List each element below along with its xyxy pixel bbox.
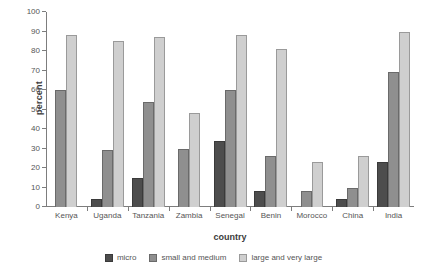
bar-group xyxy=(128,12,169,207)
y-tick-label: 90 xyxy=(16,26,40,37)
plot-area: 0102030405060708090100 xyxy=(46,12,414,207)
bar xyxy=(66,35,77,207)
legend-item: micro xyxy=(105,253,137,262)
bar xyxy=(189,113,200,207)
bar-groups xyxy=(46,12,414,207)
bar xyxy=(132,178,143,207)
bar-chart: percent 0102030405060708090100 KenyaUgan… xyxy=(0,0,427,275)
y-tick-label: 0 xyxy=(16,201,40,212)
y-tick-label: 20 xyxy=(16,162,40,173)
x-axis-label: India xyxy=(373,211,414,220)
x-axis-label: China xyxy=(332,211,373,220)
bar xyxy=(347,188,358,208)
y-tick-label: 70 xyxy=(16,65,40,76)
bar-group xyxy=(332,12,373,207)
bar xyxy=(178,149,189,208)
bar-group xyxy=(373,12,414,207)
bar xyxy=(55,90,66,207)
bar xyxy=(312,162,323,207)
bar-group xyxy=(46,12,87,207)
bar xyxy=(301,191,312,207)
y-tick-label: 60 xyxy=(16,84,40,95)
x-axis-label: Kenya xyxy=(46,211,87,220)
bar xyxy=(399,32,410,208)
bar xyxy=(265,156,276,207)
y-tick-label: 40 xyxy=(16,123,40,134)
y-tick-label: 50 xyxy=(16,104,40,115)
legend-item: small and medium xyxy=(149,253,226,262)
legend-label: micro xyxy=(117,253,137,262)
bar-group xyxy=(250,12,291,207)
legend-swatch xyxy=(149,254,157,262)
y-tick-label: 30 xyxy=(16,143,40,154)
bar xyxy=(358,156,369,207)
bar-group xyxy=(169,12,210,207)
bar xyxy=(113,41,124,207)
x-axis-label: Tanzania xyxy=(128,211,169,220)
bar xyxy=(154,37,165,207)
bar xyxy=(388,72,399,207)
bar xyxy=(225,90,236,207)
x-axis-label: Benin xyxy=(250,211,291,220)
legend-swatch xyxy=(239,254,247,262)
bar xyxy=(276,49,287,207)
bar-group xyxy=(87,12,128,207)
legend-label: large and very large xyxy=(251,253,322,262)
legend-swatch xyxy=(105,254,113,262)
bar-group xyxy=(210,12,251,207)
chart-legend: microsmall and mediumlarge and very larg… xyxy=(0,253,427,262)
y-tick-label: 100 xyxy=(16,6,40,17)
bar xyxy=(214,141,225,207)
bar xyxy=(377,162,388,207)
y-tick-label: 10 xyxy=(16,182,40,193)
bar-group xyxy=(291,12,332,207)
x-axis-label: Morocco xyxy=(291,211,332,220)
x-axis-label: Senegal xyxy=(210,211,251,220)
x-axis-label: Zambia xyxy=(169,211,210,220)
legend-item: large and very large xyxy=(239,253,322,262)
bar xyxy=(336,199,347,207)
legend-label: small and medium xyxy=(161,253,226,262)
bar xyxy=(254,191,265,207)
bar xyxy=(236,35,247,207)
y-tick-label: 80 xyxy=(16,45,40,56)
x-axis-label: Uganda xyxy=(87,211,128,220)
x-axis-title: country xyxy=(46,232,414,242)
bar xyxy=(102,150,113,207)
x-axis-category-labels: KenyaUgandaTanzaniaZambiaSenegalBeninMor… xyxy=(46,211,414,220)
bar xyxy=(91,199,102,207)
bar xyxy=(143,102,154,207)
